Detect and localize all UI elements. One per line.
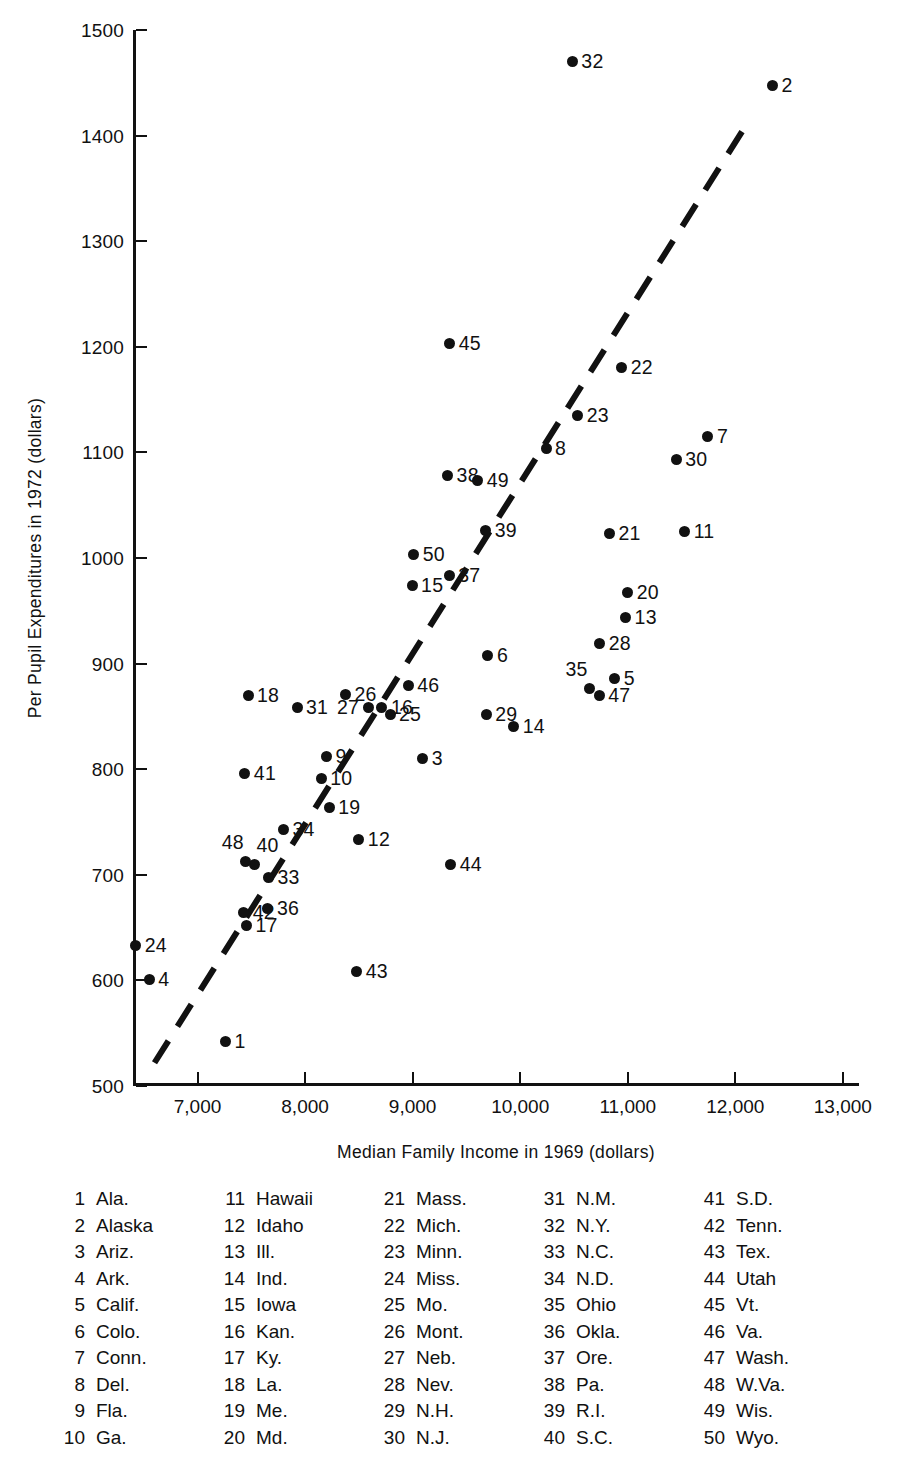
point-marker (292, 702, 303, 713)
y-tick-label: 1500 (81, 21, 124, 40)
point-label: 35 (565, 660, 587, 680)
legend-entry-50: 50Wyo. (695, 1425, 855, 1452)
legend-entry-36: 36Okla. (535, 1319, 695, 1346)
legend-entry-name: Alaska (96, 1213, 153, 1240)
x-tick-label: 9,000 (389, 1097, 437, 1116)
legend-entry-number: 45 (695, 1292, 725, 1319)
legend-entry-number: 29 (375, 1398, 405, 1425)
legend-entry-10: 10Ga. (55, 1425, 215, 1452)
point-marker (407, 580, 418, 591)
point-label: 50 (423, 545, 445, 565)
point-label: 47 (608, 686, 630, 706)
legend-entry-name: Fla. (96, 1398, 128, 1425)
legend-entry-5: 5Calif. (55, 1292, 215, 1319)
legend-entry-name: La. (256, 1372, 282, 1399)
point-label: 30 (685, 450, 707, 470)
legend-entry-number: 35 (535, 1292, 565, 1319)
point-label: 28 (609, 634, 631, 654)
legend-entry-name: S.C. (576, 1425, 613, 1452)
legend-entry-number: 48 (695, 1372, 725, 1399)
legend-entry-number: 8 (55, 1372, 85, 1399)
legend-entry-number: 22 (375, 1213, 405, 1240)
legend-entry-26: 26Mont. (375, 1319, 535, 1346)
legend-entry-name: Ala. (96, 1186, 129, 1213)
legend-entry-name: Va. (736, 1319, 763, 1346)
legend-entry-number: 44 (695, 1266, 725, 1293)
legend-entry-21: 21Mass. (375, 1186, 535, 1213)
legend-entry-number: 49 (695, 1398, 725, 1425)
point-marker (671, 454, 682, 465)
legend-entry-14: 14Ind. (215, 1266, 375, 1293)
legend-entry-name: Ariz. (96, 1239, 134, 1266)
legend-entry-7: 7Conn. (55, 1345, 215, 1372)
legend-entry-number: 33 (535, 1239, 565, 1266)
legend-entry-name: Calif. (96, 1292, 139, 1319)
legend-entry-20: 20Md. (215, 1425, 375, 1452)
legend-entry-name: Pa. (576, 1372, 605, 1399)
legend-column-3: 21Mass.22Mich.23Minn.24Miss.25Mo.26Mont.… (375, 1186, 535, 1451)
legend-entry-name: Ark. (96, 1266, 130, 1293)
legend-entry-30: 30N.J. (375, 1425, 535, 1452)
legend-entry-name: Neb. (416, 1345, 456, 1372)
legend-entry-17: 17Ky. (215, 1345, 375, 1372)
legend-entry-42: 42Tenn. (695, 1213, 855, 1240)
legend-entry-38: 38Pa. (535, 1372, 695, 1399)
legend-entry-41: 41S.D. (695, 1186, 855, 1213)
legend-entry-33: 33N.C. (535, 1239, 695, 1266)
legend-entry-number: 41 (695, 1186, 725, 1213)
legend-entry-name: N.M. (576, 1186, 616, 1213)
legend-entry-name: Okla. (576, 1319, 620, 1346)
legend-entry-number: 27 (375, 1345, 405, 1372)
legend-entry-name: Mass. (416, 1186, 467, 1213)
point-label: 7 (717, 427, 728, 447)
point-label: 2 (781, 76, 792, 96)
legend-entry-40: 40S.C. (535, 1425, 695, 1452)
legend-entry-45: 45Vt. (695, 1292, 855, 1319)
x-tick-label: 13,000 (814, 1097, 872, 1116)
legend-entry-number: 43 (695, 1239, 725, 1266)
point-label: 25 (399, 705, 421, 725)
y-tick-label: 1400 (81, 126, 124, 145)
point-label: 19 (338, 798, 360, 818)
legend-entry-11: 11Hawaii (215, 1186, 375, 1213)
legend-entry-name: Ill. (256, 1239, 275, 1266)
point-marker (541, 443, 552, 454)
point-label: 8 (555, 439, 566, 459)
point-label: 13 (635, 608, 657, 628)
legend-entry-number: 24 (375, 1266, 405, 1293)
x-tick-label: 10,000 (491, 1097, 549, 1116)
legend-entry-number: 39 (535, 1398, 565, 1425)
legend-entry-number: 32 (535, 1213, 565, 1240)
legend-entry-47: 47Wash. (695, 1345, 855, 1372)
point-label: 10 (330, 769, 352, 789)
legend-entry-name: Minn. (416, 1239, 462, 1266)
legend-entry-name: N.H. (416, 1398, 454, 1425)
legend-entry-number: 26 (375, 1319, 405, 1346)
point-label: 9 (336, 747, 347, 767)
point-label: 45 (459, 334, 481, 354)
point-label: 42 (253, 903, 275, 923)
point-label: 24 (145, 936, 167, 956)
point-label: 20 (637, 583, 659, 603)
point-marker (243, 690, 254, 701)
legend-entry-number: 2 (55, 1213, 85, 1240)
legend-entry-name: Ind. (256, 1266, 288, 1293)
legend-entry-name: Wyo. (736, 1425, 779, 1452)
y-tick-label: 900 (92, 654, 124, 673)
x-tick-label: 7,000 (174, 1097, 222, 1116)
legend-entry-number: 38 (535, 1372, 565, 1399)
legend-entry-name: N.D. (576, 1266, 614, 1293)
point-label: 44 (460, 855, 482, 875)
legend-entry-number: 40 (535, 1425, 565, 1452)
legend-entry-46: 46Va. (695, 1319, 855, 1346)
legend-entry-number: 11 (215, 1186, 245, 1213)
legend-entry-number: 18 (215, 1372, 245, 1399)
legend-entry-43: 43Tex. (695, 1239, 855, 1266)
legend-entry-name: Del. (96, 1372, 130, 1399)
point-label: 23 (587, 406, 609, 426)
legend-entry-number: 7 (55, 1345, 85, 1372)
state-key-legend: 1Ala.2Alaska3Ariz.4Ark.5Calif.6Colo.7Con… (55, 1186, 855, 1451)
legend-entry-name: Nev. (416, 1372, 454, 1399)
legend-entry-number: 6 (55, 1319, 85, 1346)
legend-entry-number: 42 (695, 1213, 725, 1240)
